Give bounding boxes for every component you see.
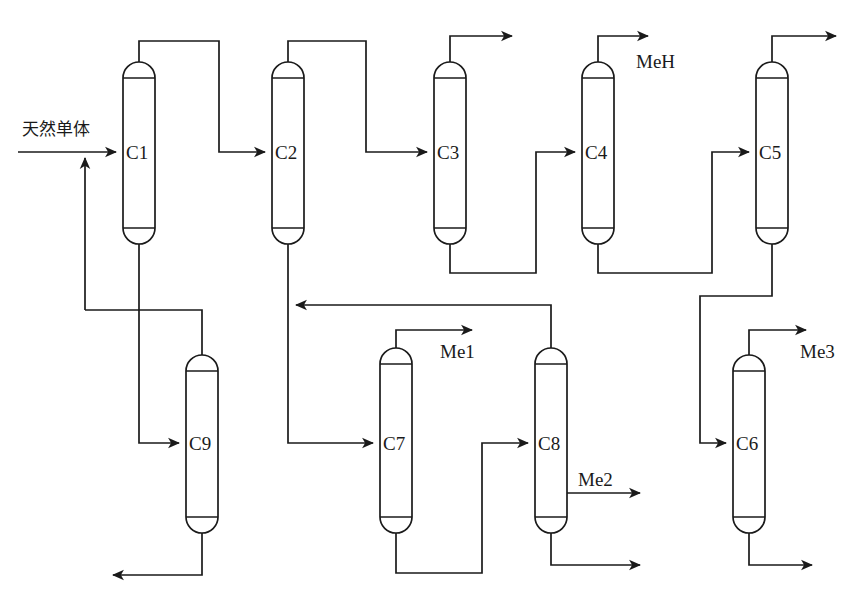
stream-c1-bottoms	[139, 243, 179, 443]
stream-c9-top-header	[85, 310, 202, 355]
column-label-C1: C1	[126, 142, 148, 163]
stream-c9-bottoms	[113, 533, 202, 575]
stream-label-feed: 天然单体	[22, 119, 90, 139]
column-label-C2: C2	[275, 142, 297, 163]
column-label-C7: C7	[383, 433, 405, 454]
stream-c6-bottoms	[749, 533, 812, 565]
stream-c8-bottoms	[551, 533, 640, 565]
column-label-C5: C5	[759, 142, 781, 163]
stream-label-me3: Me3	[800, 341, 835, 362]
stream-c2-overhead	[288, 41, 427, 152]
column-label-C4: C4	[585, 142, 608, 163]
stream-c2-bottoms	[288, 243, 373, 443]
stream-c4-bottoms	[598, 152, 749, 273]
column-label-C6: C6	[736, 433, 758, 454]
column-label-C9: C9	[189, 433, 211, 454]
process-flow-diagram: C1 C2 C3 C4 C5 C9 C7 C8 C6 天然单体 MeH Me1 …	[0, 0, 868, 607]
stream-label-meh: MeH	[636, 51, 675, 72]
flowsheet-canvas: C1 C2 C3 C4 C5 C9 C7 C8 C6 天然单体 MeH Me1 …	[0, 0, 868, 607]
stream-c3-bottoms	[450, 152, 575, 273]
stream-label-me1: Me1	[440, 341, 475, 362]
stream-label-me2: Me2	[578, 469, 613, 490]
column-label-C8: C8	[538, 433, 560, 454]
stream-c3-overhead	[450, 36, 512, 62]
stream-c1-overhead	[139, 41, 265, 152]
column-vessels	[123, 62, 788, 533]
stream-c7-bottoms	[396, 443, 528, 573]
stream-c5-overhead	[772, 36, 836, 62]
column-label-C3: C3	[437, 142, 459, 163]
stream-c6-overhead-me3	[749, 330, 806, 355]
stream-c8-overhead	[296, 305, 551, 348]
